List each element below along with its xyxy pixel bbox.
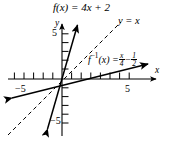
inverse-fraction-one-half: 12 — [131, 52, 137, 69]
inverse-fraction-x-over-4: x4 — [119, 52, 125, 69]
function-label: f(x) = 4x + 2 — [53, 2, 110, 13]
inverse-minus-sign: − — [125, 54, 132, 65]
graph-canvas — [0, 0, 170, 143]
y-axis — [62, 24, 69, 136]
inverse-middle: (x) = — [98, 54, 118, 65]
y-tick-label-negative-5: −5 — [50, 116, 61, 126]
x-tick-label-positive-5: 5 — [125, 84, 130, 94]
frac2-numerator: 1 — [131, 52, 137, 60]
x-tick-label-negative-5: −5 — [15, 84, 26, 94]
x-axis-label: x — [155, 66, 159, 76]
graph-figure: f(x) = 4x + 2 y = x f−1(x) =x4−12 y x −5… — [0, 0, 170, 143]
identity-line-label: y = x — [118, 16, 140, 27]
inverse-function-label: f−1(x) =x4−12 — [88, 52, 137, 69]
frac1-denominator: 4 — [119, 59, 125, 68]
frac1-numerator: x — [119, 52, 125, 60]
x-axis — [8, 73, 156, 80]
frac2-denominator: 2 — [131, 59, 137, 68]
y-tick-label-positive-5: 5 — [52, 28, 57, 38]
